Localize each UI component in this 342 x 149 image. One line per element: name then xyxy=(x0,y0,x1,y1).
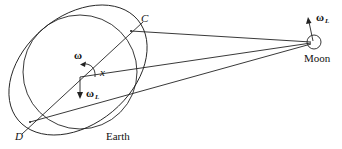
omega-l-moon-arrowhead xyxy=(306,17,312,24)
moon-line-bottom xyxy=(30,44,311,122)
cd-axis-line xyxy=(22,22,143,134)
label-moon: Moon xyxy=(304,53,330,64)
earth-moon-diagram: C D x Earth Moon ω ωL ωL xyxy=(0,0,342,149)
point-c-dot xyxy=(130,30,132,32)
label-axis-x: x xyxy=(100,67,105,78)
label-omega-l-earth: ωL xyxy=(86,88,99,101)
omega-symbol: ω xyxy=(86,87,94,99)
subscript-l: L xyxy=(325,17,329,25)
label-omega: ω xyxy=(74,50,82,61)
subscript-l: L xyxy=(95,93,99,101)
omega-arrowhead xyxy=(80,62,86,68)
label-omega-l-moon: ωL xyxy=(316,12,329,25)
earth-circle xyxy=(23,15,137,129)
diagram-drawing xyxy=(0,0,342,149)
point-d-dot xyxy=(29,121,31,123)
omega-l-earth-arrowhead xyxy=(77,92,83,99)
label-point-d: D xyxy=(15,131,23,142)
label-point-c: C xyxy=(141,13,148,24)
moon-line-top xyxy=(131,31,311,42)
omega-l-moon-arrow-shaft xyxy=(309,22,313,41)
label-earth: Earth xyxy=(106,131,130,142)
omega-symbol: ω xyxy=(316,11,324,23)
